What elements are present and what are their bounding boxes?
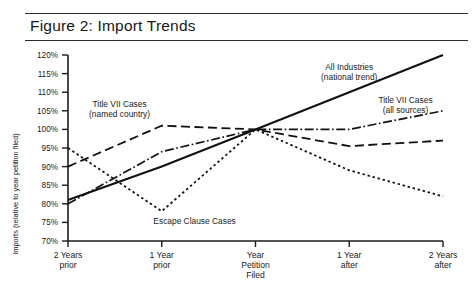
x-tick-label: Year	[247, 250, 265, 260]
y-axis-title-label: Imports (relative to year petition filed…	[11, 133, 20, 255]
series-annotation-label: All Industries	[325, 62, 373, 72]
y-tick-label: 90%	[42, 163, 58, 172]
x-tick-label: 2 Years	[54, 250, 83, 260]
y-tick-label: 85%	[42, 181, 58, 190]
series-annotation-label: Escape Clause Cases	[153, 216, 235, 226]
series-line-dashed	[68, 126, 443, 167]
x-tick-label: 1 Year	[150, 250, 175, 260]
title-rule-bottom	[25, 40, 468, 41]
y-axis-title: Imports (relative to year petition filed…	[11, 133, 20, 255]
y-tick-label: 120%	[37, 51, 58, 60]
y-tick-label: 95%	[42, 144, 58, 153]
title-rule-top	[25, 13, 468, 14]
y-tick-label: 75%	[42, 218, 58, 227]
series-annotation-label: Title VII Cases	[378, 95, 432, 105]
y-tick-label: 100%	[37, 125, 58, 134]
y-tick-label: 115%	[38, 70, 58, 79]
y-tick-label: 70%	[42, 237, 58, 246]
y-tick-label: 105%	[37, 107, 58, 116]
y-axis-ticks: 70%75%80%85%90%95%100%105%110%115%120%	[37, 51, 68, 246]
series-annotation-label: (all sources)	[383, 105, 429, 115]
figure-title: Figure 2: Import Trends	[30, 17, 196, 35]
series-annotation-label: (national trend)	[321, 72, 378, 82]
x-axis-tick-labels: 2 Yearsprior1 YearpriorYearPetitionFiled…	[54, 250, 458, 280]
x-tick-label: after	[341, 260, 358, 270]
x-axis-ticks	[68, 241, 443, 247]
import-trends-line-chart: Imports (relative to year petition filed…	[0, 44, 475, 284]
x-tick-label: prior	[153, 260, 170, 270]
series-annotation-label: Title VII Cases	[92, 99, 146, 109]
x-tick-label: Filed	[246, 270, 265, 280]
series-line-dash-dot	[68, 111, 443, 204]
series-line-solid	[68, 55, 443, 200]
series-annotation-label: (named country)	[89, 109, 150, 119]
y-tick-label: 110%	[38, 88, 58, 97]
x-tick-label: after	[434, 260, 451, 270]
x-tick-label: prior	[59, 260, 76, 270]
x-tick-label: 2 Years	[429, 250, 458, 260]
series-lines	[68, 55, 443, 211]
x-tick-label: Petition	[241, 260, 270, 270]
y-tick-label: 80%	[42, 200, 58, 209]
x-tick-label: 1 Year	[337, 250, 362, 260]
series-annotations: All Industries(national trend)Title VII …	[89, 62, 433, 226]
chart-plot-area: Imports (relative to year petition filed…	[0, 44, 475, 284]
figure-container: Figure 2: Import Trends Imports (relativ…	[0, 0, 475, 284]
